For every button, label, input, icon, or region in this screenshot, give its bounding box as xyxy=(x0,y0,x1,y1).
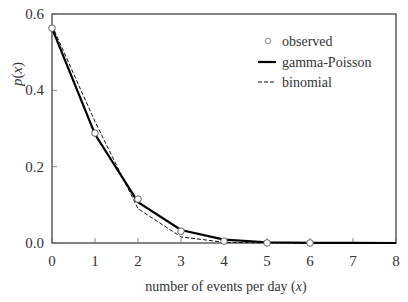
observed-marker xyxy=(49,25,56,32)
chart: 0123456780.00.20.40.6number of events pe… xyxy=(0,0,408,302)
x-tick-label: 4 xyxy=(220,253,228,269)
observed-marker xyxy=(135,196,142,203)
y-tick-label: 0.0 xyxy=(25,235,44,251)
x-tick-label: 8 xyxy=(392,253,400,269)
x-tick-label: 0 xyxy=(48,253,56,269)
y-axis-label: p(x) xyxy=(9,62,26,87)
legend-observed-label: observed xyxy=(282,34,333,49)
legend-gamma-poisson-label: gamma-Poisson xyxy=(282,55,371,70)
y-tick-label: 0.6 xyxy=(25,6,44,22)
x-tick-label: 3 xyxy=(177,253,185,269)
x-tick-label: 2 xyxy=(134,253,142,269)
x-tick-label: 1 xyxy=(91,253,99,269)
plot-frame xyxy=(52,14,396,243)
x-tick-label: 7 xyxy=(349,253,357,269)
observed-marker xyxy=(221,238,228,245)
observed-marker xyxy=(178,228,185,235)
x-tick-label: 5 xyxy=(263,253,271,269)
y-tick-label: 0.2 xyxy=(25,159,44,175)
x-tick-label: 6 xyxy=(306,253,314,269)
legend-binomial-label: binomial xyxy=(282,75,332,90)
line-chart: 0123456780.00.20.40.6number of events pe… xyxy=(0,0,408,302)
legend-observed-marker xyxy=(265,38,271,44)
observed-marker xyxy=(307,240,314,247)
y-tick-label: 0.4 xyxy=(25,82,44,98)
observed-marker xyxy=(264,240,271,247)
x-axis-label: number of events per day (x) xyxy=(145,279,307,295)
observed-marker xyxy=(92,130,99,137)
